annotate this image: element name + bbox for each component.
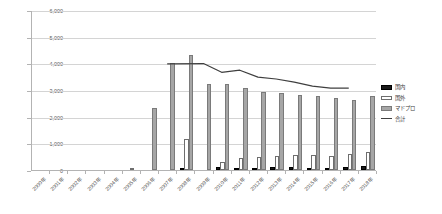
x-tick-mark bbox=[194, 171, 195, 174]
x-tick-mark bbox=[158, 171, 159, 174]
x-tick-label: 2010年 bbox=[213, 176, 229, 192]
legend-label: 国内 bbox=[395, 84, 405, 90]
x-tick-label: 2018年 bbox=[358, 176, 374, 192]
legend-swatch-icon bbox=[381, 106, 392, 111]
chart-container: 6,000 5,000 4,000 3,000 2,000 1,000 0 20… bbox=[0, 0, 442, 214]
x-tick-mark bbox=[267, 171, 268, 174]
x-tick-mark bbox=[285, 171, 286, 174]
x-tick-mark bbox=[231, 171, 232, 174]
legend-swatch-icon bbox=[381, 85, 392, 90]
x-tick-label: 2003年 bbox=[85, 176, 101, 192]
legend-item[interactable]: 国内 bbox=[381, 82, 439, 93]
x-tick-label: 2014年 bbox=[285, 176, 301, 192]
x-tick-label: 2004年 bbox=[104, 176, 120, 192]
x-tick-label: 2012年 bbox=[249, 176, 265, 192]
x-tick-label: 2013年 bbox=[267, 176, 283, 192]
legend-swatch-icon bbox=[381, 96, 392, 101]
x-tick-label: 2016年 bbox=[321, 176, 337, 192]
total-line-series bbox=[31, 11, 376, 171]
x-tick-label: 2005年 bbox=[122, 176, 138, 192]
x-tick-label: 2000年 bbox=[31, 176, 47, 192]
x-tick-label: 2009年 bbox=[194, 176, 210, 192]
legend-item[interactable]: マドプロ bbox=[381, 103, 439, 114]
legend-item[interactable]: 合計 bbox=[381, 114, 439, 125]
x-tick-label: 2002年 bbox=[67, 176, 83, 192]
chart-legend: 国内 国外 マドプロ 合計 bbox=[381, 82, 439, 124]
x-tick-mark bbox=[376, 171, 377, 174]
x-tick-mark bbox=[249, 171, 250, 174]
legend-line-icon bbox=[381, 118, 392, 119]
x-tick-mark bbox=[85, 171, 86, 174]
x-tick-mark bbox=[67, 171, 68, 174]
legend-item[interactable]: 国外 bbox=[381, 93, 439, 104]
x-tick-mark bbox=[49, 171, 50, 174]
x-tick-label: 2001年 bbox=[49, 176, 65, 192]
x-tick-mark bbox=[176, 171, 177, 174]
legend-label: 合計 bbox=[395, 116, 405, 122]
x-tick-mark bbox=[358, 171, 359, 174]
x-tick-label: 2017年 bbox=[340, 176, 356, 192]
y-tick-mark bbox=[27, 171, 31, 172]
x-tick-label: 2006年 bbox=[140, 176, 156, 192]
x-tick-label: 2015年 bbox=[303, 176, 319, 192]
x-tick-mark bbox=[322, 171, 323, 174]
x-tick-mark bbox=[122, 171, 123, 174]
x-tick-label: 2011年 bbox=[231, 176, 247, 192]
x-tick-mark bbox=[140, 171, 141, 174]
x-tick-label: 2007年 bbox=[158, 176, 174, 192]
x-tick-mark bbox=[213, 171, 214, 174]
legend-label: マドプロ bbox=[395, 105, 415, 111]
x-tick-mark bbox=[340, 171, 341, 174]
x-tick-label: 2008年 bbox=[176, 176, 192, 192]
legend-label: 国外 bbox=[395, 95, 405, 101]
x-tick-mark bbox=[303, 171, 304, 174]
x-tick-mark bbox=[104, 171, 105, 174]
